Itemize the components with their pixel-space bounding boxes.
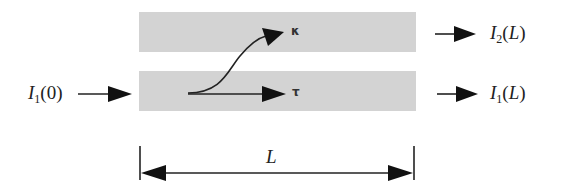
coupler-diagram: κ τ I1(0) I2(L) I1(L) L — [0, 0, 562, 192]
kappa-label: κ — [291, 24, 300, 38]
tau-label: τ — [292, 85, 300, 99]
length-label: L — [266, 146, 277, 168]
length-symbol: L — [266, 146, 277, 167]
output-upper-arg: L — [509, 22, 520, 43]
output-intensity-label-upper: I2(L) — [490, 22, 526, 47]
output-intensity-label-lower: I1(L) — [490, 82, 526, 107]
input-arg: 0 — [47, 82, 57, 103]
output-lower-arg: L — [509, 82, 520, 103]
output-arrow-lower — [437, 86, 478, 102]
output-arrow-upper — [435, 26, 476, 42]
input-intensity-label: I1(0) — [28, 82, 62, 107]
diagram-canvas — [0, 0, 562, 192]
length-dimension — [140, 146, 414, 181]
lower-waveguide — [139, 71, 416, 111]
input-arrow — [78, 86, 132, 102]
